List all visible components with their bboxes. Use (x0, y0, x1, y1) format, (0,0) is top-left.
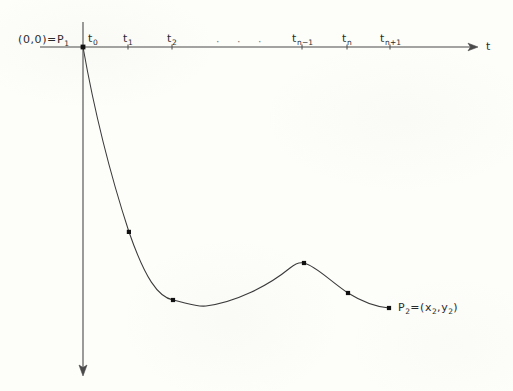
endpoint-label-p2: P2=(x2,y2) (398, 302, 458, 313)
figure-drawing (0, 0, 513, 391)
tick-label-t0: t0 (88, 33, 98, 44)
curve-point-4 (346, 291, 350, 295)
curve-point-2 (171, 298, 175, 302)
origin-label: (0,0)=P1 (18, 34, 69, 45)
tick-label-tn-1: tn−1 (292, 33, 313, 44)
tick-label-t0-sub: 0 (93, 38, 98, 47)
tick-label-t1: t1 (123, 33, 133, 44)
tick-label-t2: t2 (167, 33, 177, 44)
endpoint-label-y-sub: 2 (448, 307, 453, 316)
curve-point-3 (302, 261, 306, 265)
curve-point-1 (127, 230, 131, 234)
endpoint-label-x: =(x (410, 301, 432, 314)
tick-label-t2-sub: 2 (172, 38, 177, 47)
tick-label-tn: tn (342, 33, 352, 44)
curve-point-p1 (81, 45, 86, 50)
t-axis-label: t (486, 41, 491, 52)
endpoint-label-x-sub: 2 (432, 307, 437, 316)
curve-point-p2 (387, 306, 391, 310)
origin-label-subscript: 1 (64, 39, 69, 48)
curve-path (83, 47, 389, 308)
endpoint-label-p-sub: 2 (405, 307, 410, 316)
ellipsis-label: · · · (216, 35, 268, 48)
endpoint-label-y: ,y (437, 301, 448, 314)
tick-label-tn+1-sub: n+1 (385, 38, 401, 47)
tick-label-tn+1: tn+1 (380, 33, 401, 44)
tick-label-tn-1-sub: n−1 (297, 38, 313, 47)
figure-canvas: (0,0)=P1 t0 t1 t2 · · · tn−1 tn tn+1 t P… (0, 0, 513, 391)
curve-marker-group (81, 45, 392, 311)
endpoint-label-close: ) (453, 301, 458, 314)
origin-label-text: (0,0)=P (18, 33, 64, 46)
tick-label-t1-sub: 1 (128, 38, 133, 47)
tick-label-tn-sub: n (347, 38, 352, 47)
